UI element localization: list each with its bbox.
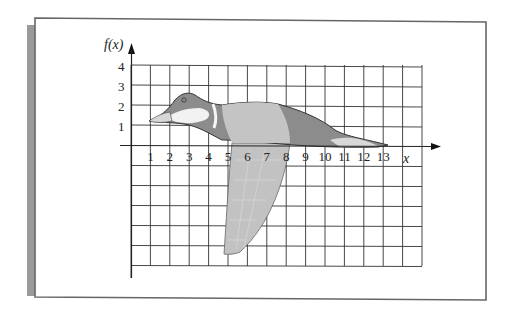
svg-text:3: 3 [186,149,193,164]
x-axis-label: x [402,151,410,166]
svg-text:4: 4 [205,149,212,164]
svg-text:12: 12 [357,149,370,164]
duck-graph-figure: f(x) x 4 3 2 1 1 2 3 4 5 6 7 8 9 10 11 1… [0,0,510,315]
svg-text:2: 2 [167,149,174,164]
svg-text:1: 1 [118,119,125,134]
svg-text:3: 3 [118,79,125,94]
svg-text:2: 2 [118,99,125,114]
svg-text:4: 4 [118,59,125,74]
svg-text:1: 1 [147,149,154,164]
svg-text:11: 11 [338,149,351,164]
svg-text:8: 8 [283,149,290,164]
y-axis-label: f(x) [104,37,124,53]
svg-text:5: 5 [225,149,232,164]
svg-text:13: 13 [377,149,390,164]
svg-text:9: 9 [302,149,309,164]
svg-text:10: 10 [319,149,332,164]
svg-text:6: 6 [244,149,251,164]
svg-text:7: 7 [264,149,271,164]
